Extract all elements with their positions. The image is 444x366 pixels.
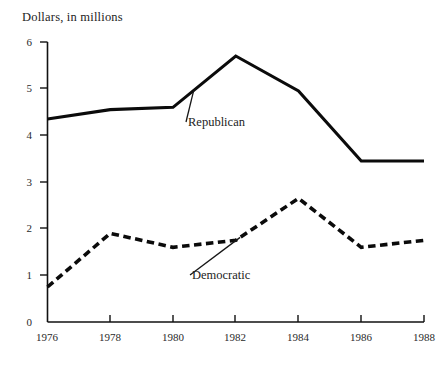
- x-tick-label: 1986: [350, 331, 373, 343]
- x-tick-label: 1976: [36, 331, 59, 343]
- y-tick-label: 5: [27, 82, 33, 94]
- y-axis-tick-labels: 6 5 4 3 2 1 0: [27, 36, 33, 328]
- y-tick-label: 4: [27, 129, 33, 141]
- y-tick-label: 2: [27, 222, 33, 234]
- x-axis-tick-labels: 1976 1978 1980 1982 1984 1986 1988: [36, 331, 436, 343]
- series-line-republican: [48, 56, 425, 161]
- x-tick-label: 1988: [413, 331, 436, 343]
- y-tick-label: 3: [27, 176, 33, 188]
- x-axis-ticks: [110, 315, 424, 322]
- x-tick-label: 1978: [99, 331, 122, 343]
- x-tick-label: 1980: [162, 331, 185, 343]
- series-label-republican: Republican: [188, 115, 246, 129]
- series-label-democratic: Democratic: [192, 268, 251, 282]
- y-tick-label: 0: [27, 316, 33, 328]
- y-tick-label: 1: [27, 269, 33, 281]
- line-chart-plot: 6 5 4 3 2 1 0 1976 1978 1980 1982 1984 1…: [0, 0, 444, 366]
- x-tick-label: 1984: [287, 331, 310, 343]
- x-tick-label: 1982: [224, 331, 246, 343]
- y-tick-label: 6: [27, 36, 33, 48]
- y-axis-ticks: [40, 42, 48, 275]
- chart-page: Dollars, in millions 6 5 4 3 2 1 0: [0, 0, 444, 366]
